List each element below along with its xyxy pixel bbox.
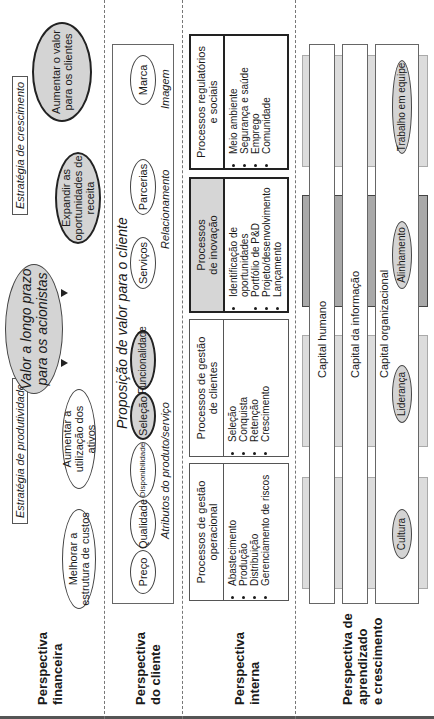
process-items: Abastecimento Produção Distribuição Gere… (227, 464, 271, 600)
diagram-frame: Perspectiva financeira Perspectiva do cl… (0, 0, 434, 719)
label-line: Perspectiva (133, 632, 148, 705)
strategy-productivity-label: Estratégia de produtividade (12, 378, 28, 524)
process-operational: Processos de gestão operacional Abasteci… (189, 463, 289, 601)
attribute-quality: Qualidade (130, 500, 156, 548)
goal-text: Valor a longo prazo (18, 269, 34, 390)
process-items: Seleção Conquista Retenção Crescimento (227, 320, 271, 456)
capital-organizational-label: Capital organizacional (378, 270, 390, 378)
goal-text: utilização dos ativos (73, 390, 97, 488)
capital-human-bar: Capital humano (309, 44, 335, 604)
org-teamwork: Trabalho em equipe (392, 60, 412, 154)
process-item: Gerenciamento de riscos (260, 464, 271, 586)
perspective-internal-label: Perspectiva interna (232, 632, 262, 705)
goal-text: estrutura de custos (79, 512, 91, 606)
label-line: financeira (50, 632, 65, 705)
strategy-growth-label: Estratégia de crescimento (12, 76, 28, 215)
goal-customer-value: Aumentar o valor para os clientes (32, 22, 92, 122)
process-item: Segurança e saúde (239, 36, 250, 154)
goal-text: Melhorar a (67, 512, 79, 606)
process-innovation: Processos de inovação Identificação de o… (189, 177, 289, 313)
process-title: Processos de inovação (191, 179, 225, 311)
perspective-learning-label: Perspectiva de aprendizado e crescimento (340, 613, 385, 705)
process-regulatory-social: Processos regulatórios e sociais Meio am… (189, 34, 289, 170)
process-item: Identificação de oportunidades (228, 179, 250, 297)
label-line: do cliente (148, 632, 163, 705)
process-item: Abastecimento (227, 464, 238, 586)
process-title: Processos regulatórios e sociais (191, 36, 225, 168)
attribute-availability: Disponibilidade (130, 442, 156, 498)
image-brand: Marca (130, 55, 156, 105)
arrow-head-icon (61, 359, 68, 367)
value-proposition-title: Proposição de valor para o cliente (114, 217, 130, 429)
process-customer-management: Processos de gestão de clientes Seleção … (189, 319, 289, 457)
process-title-text: operacional (207, 481, 219, 584)
process-item: Seleção (227, 320, 238, 442)
goal-text: oportunidades de (72, 156, 84, 241)
attribute-selection: Seleção (130, 392, 156, 440)
process-items: Identificação de oportunidades Portfólio… (228, 179, 283, 311)
process-item: Conquista (238, 320, 249, 442)
goal-asset-utilization: Aumentar a utilização dos ativos (62, 389, 96, 489)
process-title: Processos de gestão de clientes (190, 320, 224, 456)
goal-long-term-value: Valor a longo prazo para os acionistas (5, 264, 63, 394)
process-title-text: Processos regulatórios (195, 46, 207, 158)
separator-financial-customer (104, 0, 105, 719)
strategy-map: Perspectiva financeira Perspectiva do cl… (0, 0, 434, 719)
process-title-text: Processos (195, 215, 207, 274)
capital-human-label: Capital humano (316, 301, 328, 378)
capital-information-bar: Capital da informação (342, 44, 368, 604)
process-item: Distribuição (249, 464, 260, 586)
relationship-partnerships: Parcerias (130, 159, 156, 215)
process-item: Portfólio de P&D (250, 179, 261, 297)
label-line: aprendizado (355, 613, 370, 705)
process-item: Emprego (250, 36, 261, 154)
separator-internal-learning (295, 0, 296, 719)
process-item: Lançamento (272, 179, 283, 297)
label-line: Perspectiva de (340, 613, 355, 705)
perspective-financial-label: Perspectiva financeira (35, 632, 65, 705)
process-title-text: e sociais (207, 46, 219, 158)
process-title-text: de inovação (207, 215, 219, 274)
group-image-label: Imagem (159, 69, 171, 109)
process-items: Meio ambiente Segurança e saúde Emprego … (228, 36, 272, 168)
process-item: Retenção (249, 320, 260, 442)
org-culture: Cultura (392, 509, 412, 559)
group-relationship-label: Relacionamento (159, 170, 171, 250)
goal-text: Aumentar a (61, 390, 73, 488)
perspective-customer-label: Perspectiva do cliente (133, 632, 163, 705)
process-item: Meio ambiente (228, 36, 239, 154)
arrow-head-icon (61, 289, 68, 297)
separator-customer-internal (182, 0, 183, 719)
capital-information-label: Capital da informação (349, 271, 361, 378)
label-line: e crescimento (370, 613, 385, 705)
process-item: Produção (238, 464, 249, 586)
goal-text: para os acionistas (34, 269, 50, 390)
goal-text: para os clientes (62, 30, 74, 114)
process-item: Projeto/desenvolvimento (261, 179, 272, 297)
attribute-functionality: Funcionalidade (130, 330, 156, 390)
org-leadership: Liderança (392, 365, 412, 423)
label-line: interna (247, 632, 262, 705)
process-item: Crescimento (260, 320, 271, 442)
org-alignment: Alinhamento (392, 221, 412, 289)
attribute-price: Preço (130, 550, 156, 594)
label-line: Perspectiva (35, 632, 50, 705)
process-item: Comunidade (261, 36, 272, 154)
process-title-text: de clientes (207, 337, 219, 440)
goal-text: Expandir as (60, 156, 72, 241)
goal-text: Aumentar o valor (50, 30, 62, 114)
goal-text: receita (84, 156, 96, 241)
goal-cost-structure: Melhorar a estrutura de custos (62, 509, 96, 609)
relationship-services: Serviços (130, 237, 156, 289)
goal-revenue-opportunities: Expandir as oportunidades de receita (55, 152, 101, 244)
process-title-text: Processos de gestão (195, 481, 207, 584)
process-title-text: Processos de gestão (195, 337, 207, 440)
label-line: Perspectiva (232, 632, 247, 705)
process-title: Processos de gestão operacional (190, 464, 224, 600)
group-attributes-label: Atributos do produto/serviço (159, 402, 171, 539)
